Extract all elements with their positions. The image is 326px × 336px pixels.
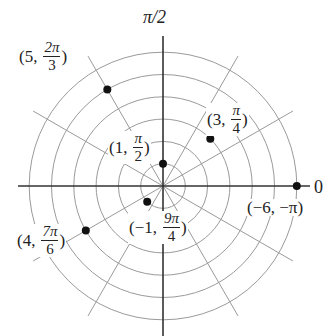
label-text: (−6, −π)	[247, 199, 303, 216]
fraction: 9π 4	[163, 211, 180, 244]
fraction-denominator: 2	[134, 148, 142, 164]
label-close: )	[242, 111, 248, 128]
fraction-numerator: π	[133, 131, 143, 148]
point-dot-4	[293, 182, 301, 190]
axis-label-pi-over-2: π/2	[143, 8, 166, 26]
fraction-denominator: 6	[46, 241, 54, 257]
fraction-denominator: 4	[232, 120, 240, 136]
point-label-1-pi-2: (1, π 2 )	[108, 131, 151, 164]
fraction: π 4	[231, 103, 241, 136]
label-close: )	[61, 48, 67, 65]
fraction-numerator: 2π	[43, 40, 60, 57]
label-close: )	[144, 139, 150, 156]
fraction-denominator: 3	[48, 57, 56, 73]
fraction: π 2	[133, 131, 143, 164]
point-label-neg6-neg-pi: (−6, −π)	[246, 199, 304, 216]
label-open: (5,	[19, 48, 37, 65]
label-open: (3,	[207, 111, 225, 128]
point-dot-3	[159, 160, 167, 168]
label-close: )	[59, 232, 65, 249]
label-open: (−1,	[129, 219, 157, 236]
axis-label-zero: 0	[314, 178, 323, 196]
point-label-4-7pi-6: (4, 7π 6 )	[16, 224, 66, 257]
point-label-neg1-9pi-4: (−1, 9π 4 )	[128, 211, 188, 244]
label-open: (4,	[17, 232, 35, 249]
fraction: 7π 6	[41, 224, 58, 257]
fraction-denominator: 4	[168, 228, 176, 244]
label-close: )	[181, 219, 187, 236]
point-dot-1	[103, 85, 111, 93]
fraction-numerator: 7π	[41, 224, 58, 241]
label-open: (1,	[109, 139, 127, 156]
point-dot-6	[82, 227, 90, 235]
fraction-numerator: π	[231, 103, 241, 120]
fraction: 2π 3	[43, 40, 60, 73]
point-label-5-2pi-3: (5, 2π 3 )	[18, 40, 68, 73]
point-dot-5	[143, 198, 151, 206]
point-label-3-pi-4: (3, π 4 )	[206, 103, 249, 136]
fraction-numerator: 9π	[163, 211, 180, 228]
